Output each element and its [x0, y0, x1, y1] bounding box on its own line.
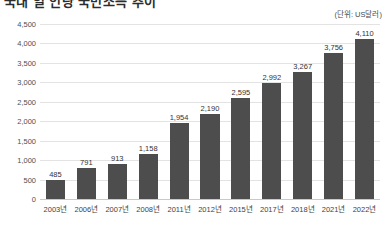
y-axis-tick-label: 4,500 [0, 20, 36, 29]
y-axis-tick-label: 2,500 [0, 97, 36, 106]
bar[interactable] [108, 164, 127, 200]
y-axis-tick-label: 0 [0, 195, 36, 204]
bar-value-label: 1,954 [170, 113, 189, 122]
bar-column[interactable]: 2,992 [262, 24, 281, 199]
bar-column[interactable]: 791 [77, 24, 96, 199]
bar-column[interactable]: 2,190 [200, 24, 219, 199]
x-axis-tick-label: 2003년 [44, 203, 68, 214]
x-axis-tick-label: 2021년 [322, 203, 346, 214]
axis-baseline [40, 199, 380, 200]
bar-value-label: 4,110 [355, 29, 373, 38]
bar-column[interactable]: 3,267 [293, 24, 312, 199]
unit-label: (단위: US달러) [334, 8, 382, 19]
y-axis-tick-label: 3,000 [0, 78, 36, 87]
bar-column[interactable]: 1,158 [139, 24, 158, 199]
plot-area: 4857919131,1581,9542,1902,5952,9923,2673… [40, 24, 380, 199]
bar-column[interactable]: 3,756 [324, 24, 343, 199]
bar-value-label: 2,190 [201, 104, 220, 113]
y-axis-tick-label: 3,500 [0, 58, 36, 67]
x-axis-tick-label: 2006년 [75, 203, 99, 214]
bar[interactable] [293, 72, 312, 199]
x-axis-tick-label: 2015년 [229, 203, 253, 214]
bar[interactable] [46, 180, 65, 199]
bar[interactable] [170, 123, 189, 199]
bar-column[interactable]: 1,954 [170, 24, 189, 199]
bar-value-label: 3,756 [324, 43, 343, 52]
y-axis-tick-label: 2,000 [0, 117, 36, 126]
page-title: 국내 일 인당 국민소득 추이 [4, 0, 156, 10]
bar[interactable] [139, 154, 158, 199]
bar-value-label: 1,158 [139, 144, 158, 153]
bar-column[interactable]: 485 [46, 24, 65, 199]
y-axis-tick-label: 500 [0, 175, 36, 184]
x-axis-tick-label: 2011년 [168, 203, 191, 214]
bar-value-label: 485 [49, 170, 62, 179]
y-axis-tick-label: 1,000 [0, 156, 36, 165]
bar-value-label: 2,595 [232, 88, 251, 97]
bar-value-label: 2,992 [262, 73, 281, 82]
bar[interactable] [231, 98, 250, 199]
x-axis-tick-label: 2012년 [198, 203, 222, 214]
y-axis-tick-label: 4,000 [0, 39, 36, 48]
x-axis-tick-label: 2018년 [291, 203, 315, 214]
bar[interactable] [262, 83, 281, 199]
x-axis-tick-label: 2007년 [105, 203, 129, 214]
x-axis-tick-label: 2022년 [353, 203, 377, 214]
bar[interactable] [77, 168, 96, 199]
bar[interactable] [355, 39, 374, 199]
bar[interactable] [200, 114, 219, 199]
bar-value-label: 3,267 [293, 62, 312, 71]
x-axis-tick-label: 2008년 [136, 203, 160, 214]
bar[interactable] [324, 53, 343, 199]
bar-column[interactable]: 4,110 [355, 24, 374, 199]
bar-value-label: 913 [111, 154, 124, 163]
bar-column[interactable]: 913 [108, 24, 127, 199]
y-axis-tick-label: 1,500 [0, 136, 36, 145]
bar-value-label: 791 [80, 158, 93, 167]
x-axis-tick-label: 2017년 [260, 203, 284, 214]
bar-column[interactable]: 2,595 [231, 24, 250, 199]
